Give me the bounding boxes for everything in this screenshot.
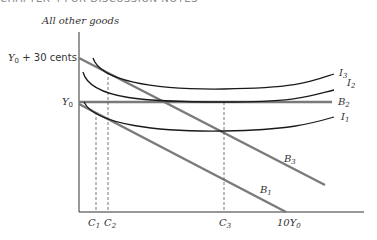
x-tick-c1: C1 — [88, 217, 100, 230]
x-tick-c2: C2 — [104, 217, 117, 230]
x-tick-c3: C3 — [219, 217, 232, 230]
y-tick-y0-plus-30: Y0 + 30 cents — [8, 52, 77, 65]
consumer-choice-diagram: All other goods Y0 + 30 cents Y0 I3 I2 B… — [0, 0, 377, 240]
y-tick-y0: Y0 — [62, 96, 73, 109]
label-i1: I1 — [340, 111, 349, 124]
x-tick-10y0: 10Y0 — [277, 217, 301, 230]
label-b1: B1 — [259, 184, 272, 197]
label-i2: I2 — [346, 77, 356, 90]
y-axis-label: All other goods — [41, 15, 119, 26]
label-b2: B2 — [337, 96, 350, 109]
indifference-curve-i2 — [83, 72, 334, 102]
